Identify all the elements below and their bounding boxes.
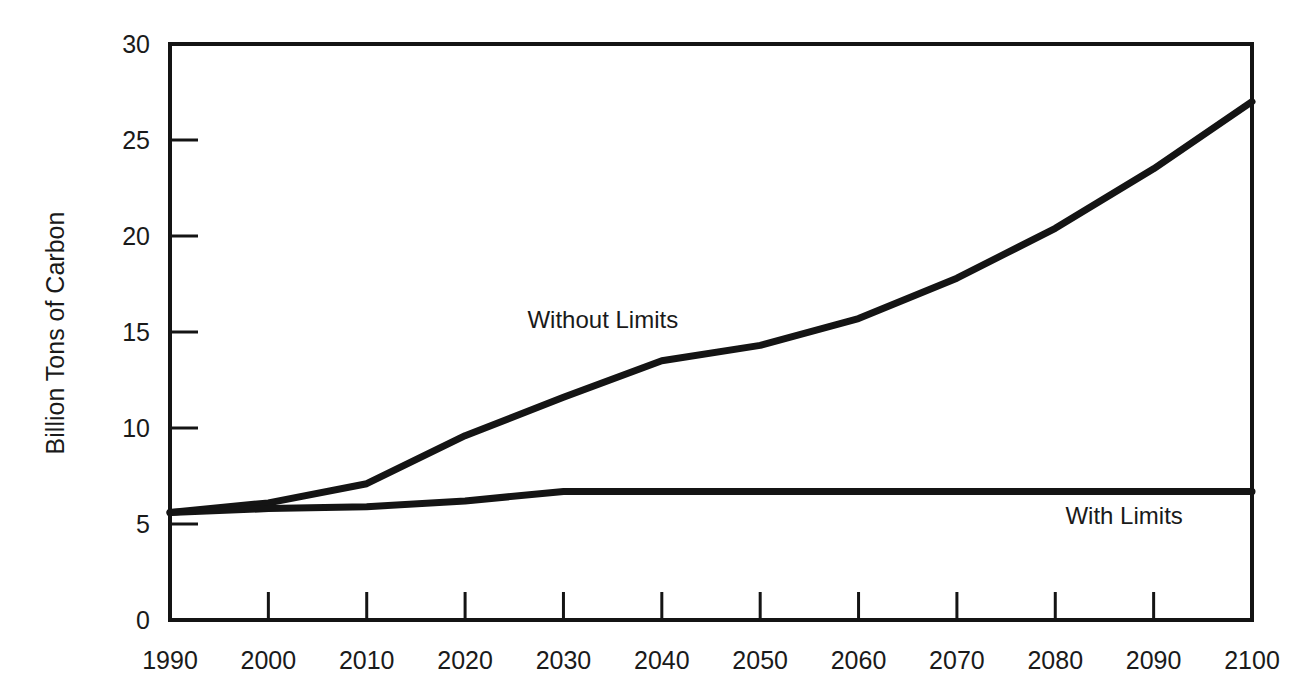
y-tick-label: 25 <box>122 126 150 154</box>
x-tick-label: 2040 <box>634 646 690 674</box>
series-annotations: Without LimitsWith Limits <box>527 306 1182 529</box>
y-tick-label: 15 <box>122 318 150 346</box>
x-tick-label: 2020 <box>437 646 493 674</box>
x-tick-label: 2100 <box>1224 646 1280 674</box>
y-axis-ticks: 051015202530 <box>122 30 198 634</box>
y-tick-label: 30 <box>122 30 150 58</box>
y-tick-label: 0 <box>136 606 150 634</box>
plot-border <box>170 44 1252 620</box>
x-tick-label: 2060 <box>831 646 887 674</box>
data-series <box>170 102 1252 513</box>
y-axis-label: Billion Tons of Carbon <box>41 212 69 455</box>
carbon-emissions-chart: 051015202530 199020002010202020302040205… <box>0 0 1316 699</box>
annotation-without-limits: Without Limits <box>527 306 678 333</box>
y-tick-label: 5 <box>136 510 150 538</box>
series-line-without-limits <box>170 102 1252 513</box>
x-axis-ticks: 1990200020102020203020402050206020702080… <box>142 592 1280 674</box>
x-tick-label: 2000 <box>241 646 297 674</box>
x-tick-label: 2070 <box>929 646 985 674</box>
y-tick-label: 20 <box>122 222 150 250</box>
annotation-with-limits: With Limits <box>1065 502 1182 529</box>
x-tick-label: 1990 <box>142 646 198 674</box>
x-tick-label: 2080 <box>1027 646 1083 674</box>
y-tick-label: 10 <box>122 414 150 442</box>
x-tick-label: 2010 <box>339 646 395 674</box>
x-tick-label: 2050 <box>732 646 788 674</box>
x-tick-label: 2030 <box>536 646 592 674</box>
x-tick-label: 2090 <box>1126 646 1182 674</box>
plot-frame <box>170 44 1252 620</box>
